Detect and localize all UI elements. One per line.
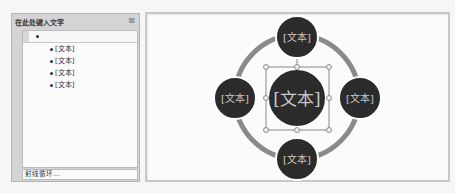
radial-cycle-diagram: [文本] [文本] [文本] [文本] [文本] [145, 12, 450, 182]
list-item-level1[interactable] [23, 31, 137, 43]
satellite-bottom[interactable]: [文本] [276, 138, 318, 180]
satellite-right-label: [文本] [346, 92, 374, 104]
bullet-icon [50, 72, 53, 75]
smartart-canvas[interactable]: [文本] [文本] [文本] [文本] [文本] [145, 12, 450, 182]
close-icon[interactable]: ⊠ [128, 16, 135, 25]
list-item[interactable]: [文本] [55, 81, 74, 89]
list-item[interactable]: [文本] [55, 69, 74, 77]
satellite-left[interactable]: [文本] [214, 77, 256, 119]
satellite-right[interactable]: [文本] [339, 77, 381, 119]
bullet-icon [50, 48, 53, 51]
satellite-top[interactable]: [文本] [276, 16, 318, 58]
center-node-label: [文本] [273, 89, 320, 109]
satellite-left-label: [文本] [221, 92, 249, 104]
bullet-icon [50, 60, 53, 63]
row-handle [23, 31, 29, 42]
layout-name-link[interactable]: 射线循环... [22, 169, 138, 180]
bullet-icon [50, 84, 53, 87]
bullet-icon [36, 35, 39, 38]
list-item[interactable]: [文本] [55, 57, 74, 65]
text-pane-list[interactable]: [文本] [文本] [文本] [文本] [22, 30, 138, 168]
list-item[interactable]: [文本] [55, 45, 74, 53]
satellite-top-label: [文本] [283, 31, 311, 43]
text-pane: 在此处键入文字 ⊠ [文本] [文本] [文本] [文本] 射线循环... [11, 13, 140, 182]
center-node[interactable]: [文本] [268, 69, 326, 127]
satellite-bottom-label: [文本] [283, 153, 311, 165]
text-pane-title: 在此处键入文字 [15, 17, 64, 27]
